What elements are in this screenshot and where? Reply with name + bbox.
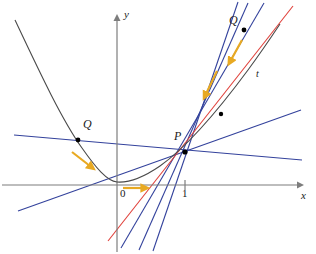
point-P [182, 149, 187, 154]
point-Q-right [242, 28, 247, 33]
arrow-q-left-to-p [72, 152, 90, 166]
tangent-label-t: t [256, 69, 259, 79]
point-label-P: P [174, 130, 181, 142]
motion-arrows-group [72, 40, 242, 188]
secant-lines-group [14, 2, 302, 251]
point-Q-left [76, 138, 81, 143]
math-figure: y x 0 1 P Q Q t [0, 0, 316, 254]
secant-steep-3-line [153, 2, 238, 251]
arrow-secant-slide [206, 71, 217, 94]
secant-shallow-down-line [14, 135, 302, 160]
figure-canvas [0, 0, 316, 254]
point-label-Q-right: Q [229, 14, 238, 26]
point-Q-mid-right [219, 112, 223, 116]
arrow-q-right-to-p [231, 40, 242, 60]
x-tick-label-1: 1 [182, 188, 188, 199]
y-axis-label: y [124, 9, 129, 20]
tangent-line-t [108, 6, 293, 241]
points-group [76, 28, 247, 155]
axes-group [2, 20, 298, 252]
secant-steep-2-line [139, 3, 248, 250]
secant-steep-1-line [121, 3, 264, 248]
x-axis-label: x [301, 190, 306, 201]
point-label-Q-left: Q [83, 118, 92, 130]
secant-shallow-up-line [18, 110, 301, 211]
origin-label: 0 [120, 188, 126, 199]
